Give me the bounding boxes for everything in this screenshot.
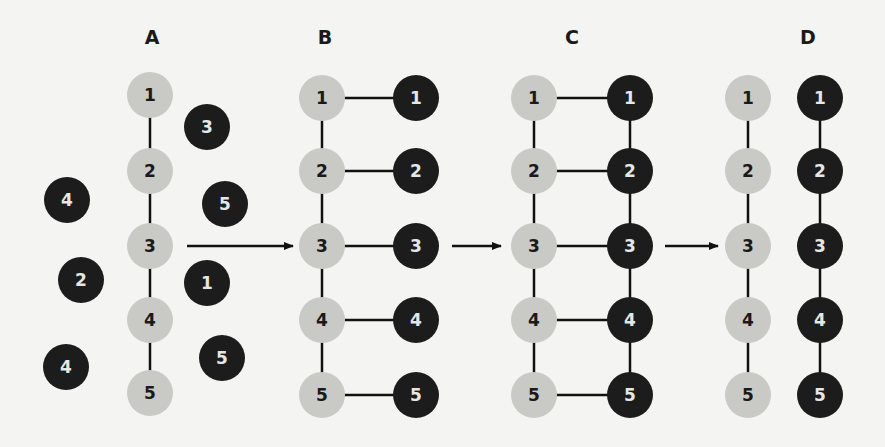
panel-label-a: A (145, 26, 160, 48)
light-node-d-5: 5 (725, 372, 771, 418)
dark-node-a-5: 5 (202, 181, 248, 227)
panel-label-c: C (565, 26, 579, 48)
light-node-b-3: 3 (299, 223, 345, 269)
dark-node-a-4: 4 (44, 177, 90, 223)
dark-node-c-3: 3 (607, 223, 653, 269)
dark-node-d-3: 3 (797, 223, 843, 269)
light-node-a-3: 3 (127, 223, 173, 269)
dark-node-d-5: 5 (797, 372, 843, 418)
dark-node-a-5: 5 (199, 335, 245, 381)
light-node-d-3: 3 (725, 223, 771, 269)
light-node-b-5: 5 (299, 372, 345, 418)
panel-label-d: D (800, 26, 816, 48)
light-node-b-2: 2 (299, 148, 345, 194)
light-node-d-2: 2 (725, 148, 771, 194)
light-node-a-1: 1 (127, 72, 173, 118)
dark-node-b-1: 1 (393, 75, 439, 121)
dark-node-b-5: 5 (393, 372, 439, 418)
panel-label-b: B (318, 26, 332, 48)
light-node-c-4: 4 (511, 297, 557, 343)
light-node-a-4: 4 (127, 297, 173, 343)
dark-node-d-4: 4 (797, 297, 843, 343)
light-node-b-1: 1 (299, 75, 345, 121)
light-node-c-2: 2 (511, 148, 557, 194)
light-node-c-3: 3 (511, 223, 557, 269)
light-node-b-4: 4 (299, 297, 345, 343)
light-node-a-5: 5 (127, 370, 173, 416)
dark-node-d-1: 1 (797, 75, 843, 121)
dark-node-b-3: 3 (393, 223, 439, 269)
light-node-c-1: 1 (511, 75, 557, 121)
dark-node-a-1: 1 (184, 260, 230, 306)
dark-node-b-4: 4 (393, 297, 439, 343)
dark-node-c-5: 5 (607, 372, 653, 418)
dark-node-c-2: 2 (607, 148, 653, 194)
light-node-c-5: 5 (511, 372, 557, 418)
light-node-d-4: 4 (725, 297, 771, 343)
dark-node-c-1: 1 (607, 75, 653, 121)
dark-node-a-2: 2 (58, 257, 104, 303)
dark-node-c-4: 4 (607, 297, 653, 343)
dark-node-b-2: 2 (393, 148, 439, 194)
dark-node-d-2: 2 (797, 148, 843, 194)
light-node-a-2: 2 (127, 148, 173, 194)
dark-node-a-4: 4 (43, 344, 89, 390)
dark-node-a-3: 3 (184, 104, 230, 150)
light-node-d-1: 1 (725, 75, 771, 121)
diagram-canvas: A123453452145B1234512345C1234512345D1234… (0, 0, 885, 447)
